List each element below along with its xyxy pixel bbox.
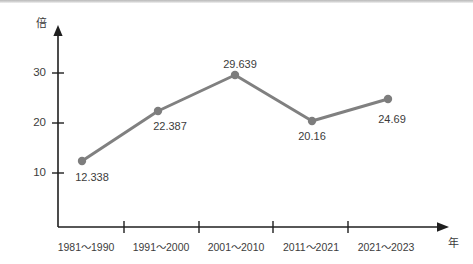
y-axis-unit-label: 倍 bbox=[36, 14, 47, 30]
y-tick-label-10: 10 bbox=[22, 166, 46, 178]
chart-figure: 倍 年 30 20 10 1981～1990 1991～2000 2001～20… bbox=[0, 0, 473, 264]
y-tick-label-20: 20 bbox=[22, 116, 46, 128]
x-axis-unit-label: 年 bbox=[448, 234, 459, 250]
data-value-label-5: 24.69 bbox=[378, 113, 406, 125]
x-axis-arrow-icon bbox=[437, 222, 449, 232]
data-value-label-2: 22.387 bbox=[153, 120, 187, 132]
data-value-label-1: 12.338 bbox=[75, 171, 109, 183]
data-point-marker bbox=[154, 107, 162, 115]
data-point-marker bbox=[384, 95, 392, 103]
data-point-marker bbox=[308, 117, 316, 125]
x-tick-label-2021-2023: 2021～2023 bbox=[358, 239, 415, 254]
y-tick-label-30: 30 bbox=[22, 66, 46, 78]
x-tick-label-1991-2000: 1991～2000 bbox=[133, 239, 190, 254]
x-tick-label-2001-2010: 2001～2010 bbox=[208, 239, 265, 254]
y-axis-arrow-icon bbox=[53, 25, 62, 36]
data-point-marker bbox=[231, 71, 239, 79]
data-line-series-1 bbox=[82, 75, 388, 161]
data-value-label-4: 20.16 bbox=[298, 130, 326, 142]
x-tick-label-1981-1990: 1981～1990 bbox=[58, 239, 115, 254]
chart-plot-area bbox=[0, 0, 473, 264]
x-tick-label-2011-2021: 2011～2021 bbox=[283, 239, 339, 254]
data-point-marker bbox=[78, 157, 86, 165]
data-value-label-3: 29.639 bbox=[223, 58, 257, 70]
